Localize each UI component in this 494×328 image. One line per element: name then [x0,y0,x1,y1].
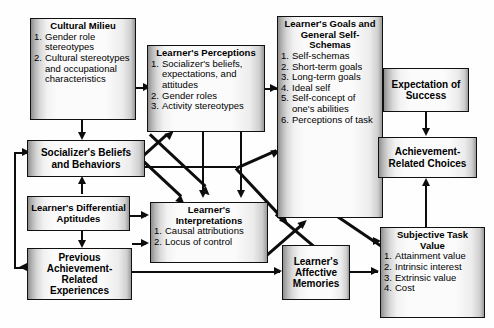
list-item-text: Activity stereotypes [162,100,244,111]
list-item-text: Attainment value [395,250,466,261]
box-cultural-milieu-items: 1.Gender role stereotypes2.Cultural ster… [34,32,132,85]
list-item-text: Gender roles [162,90,217,101]
connector-value-to-choices [425,182,427,228]
arrowhead-aptitudes-to-previous [78,240,86,248]
box-subjective-task-value-items: 1.Attainment value2.Intrinsic interest3.… [384,251,481,294]
diagram-canvas: Cultural Milieu 1.Gender role stereotype… [0,0,494,328]
arrowhead-feedback-from-previous [19,263,27,271]
box-expectation-of-success-title: Expectation of Success [387,79,465,101]
box-learners-interpretations-title: Learner's Interpretations [154,205,264,226]
list-item-number: 1. [151,59,162,70]
list-item: 6.Perceptions of task [281,115,379,126]
box-learners-affective-memories[interactable]: Learner's Affective Memories [282,245,350,300]
list-item-number: 1. [34,32,45,43]
list-item-number: 2. [34,53,45,64]
arrowhead-expectation-to-choices [422,128,430,136]
list-item-text: Cost [395,282,415,293]
list-item-text: Locus of control [165,236,232,247]
list-item-text: Self-schemas [292,50,350,61]
box-expectation-of-success[interactable]: Expectation of Success [383,68,469,112]
arrowhead-memories-to-value [371,267,379,275]
list-item-text: Ideal self [292,82,330,93]
list-item-text: Self-concept of one's abilities [292,92,355,114]
box-subjective-task-value-title: Subjective Task Value [384,230,481,251]
box-learners-differential-aptitudes[interactable]: Learner's Differential Aptitudes [27,196,130,231]
arrowhead-value-to-choices [422,178,430,186]
list-item-text: Gender role stereotypes [45,31,95,53]
list-item-number: 5. [281,93,292,104]
list-item-text: Intrinsic interest [395,261,462,272]
list-item: 2.Cultural stereotypes and occupational … [34,53,132,85]
list-item: 1.Socializer's beliefs, expectations, an… [151,59,261,91]
list-item: 4.Cost [384,283,481,294]
list-item: 5.Self-concept of one's abilities [281,93,379,114]
box-achievement-related-choices[interactable]: Achievement-Related Choices [378,137,477,178]
list-item-text: Causal attributions [165,225,244,236]
box-socializers-beliefs[interactable]: Socializer's Beliefs and Behaviors [27,140,145,177]
list-item-number: 4. [384,283,395,294]
arrowhead-aptitudes-to-socializer [78,176,86,184]
list-item-text: Cultural stereotypes and occupational ch… [45,52,129,84]
list-item-text: Short-term goals [292,61,362,72]
list-item-number: 2. [384,262,395,273]
connector-perceptions-to-interp-diag [149,133,206,187]
list-item-number: 2. [154,237,165,248]
list-item: 2.Locus of control [154,237,264,248]
box-subjective-task-value[interactable]: Subjective Task Value 1.Attainment value… [380,227,485,318]
arrowhead-goals-to-interpretations [237,190,245,198]
box-socializers-beliefs-title: Socializer's Beliefs and Behaviors [31,147,141,169]
list-item-text: Extrinsic value [395,272,456,283]
box-learners-goals-items: 1.Self-schemas2.Short-term goals3.Long-t… [281,51,379,125]
connector-feedback-rail [14,152,16,269]
list-item: 3.Activity stereotypes [151,101,261,112]
arrowhead-cultural-to-socializer [78,132,86,140]
box-learners-affective-memories-title: Learner's Affective Memories [286,256,346,290]
box-previous-achievement-experiences[interactable]: Previous Achievement-Related Experiences [27,248,132,300]
list-item-text: Perceptions of task [292,114,373,125]
list-item-number: 6. [281,115,292,126]
box-achievement-related-choices-title: Achievement-Related Choices [382,146,473,168]
list-item-text: Long-term goals [292,71,361,82]
box-learners-interpretations-items: 1.Causal attributions2.Locus of control [154,226,264,247]
box-previous-achievement-experiences-title: Previous Achievement-Related Experiences [31,252,128,297]
box-learners-goals[interactable]: Learner's Goals and General Self-Schemas… [277,16,383,218]
box-learners-perceptions-items: 1.Socializer's beliefs, expectations, an… [151,59,261,112]
list-item: 1.Gender role stereotypes [34,32,132,53]
box-learners-interpretations[interactable]: Learner's Interpretations 1.Causal attri… [150,202,268,263]
arrowhead-previous-to-interpretations [141,239,149,247]
list-item-number: 1. [281,51,292,62]
list-item-text: Socializer's beliefs, expectations, and … [162,58,243,90]
box-learners-perceptions[interactable]: Learner's Perceptions 1.Socializer's bel… [147,45,265,132]
arrowhead-previous-to-memories [274,267,282,275]
box-cultural-milieu[interactable]: Cultural Milieu 1.Gender role stereotype… [30,18,136,120]
box-learners-goals-title: Learner's Goals and General Self-Schemas [281,19,379,51]
box-learners-differential-aptitudes-title: Learner's Differential Aptitudes [31,203,126,224]
connector-socializer-trunk [145,166,236,168]
connector-previous-to-memories [132,271,280,273]
arrowhead-aptitudes-to-interpretations [141,211,149,219]
list-item-number: 3. [151,101,162,112]
